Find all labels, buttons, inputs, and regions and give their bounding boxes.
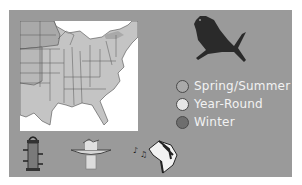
legend-label: Year-Round	[194, 97, 263, 111]
svg-text:♪: ♪	[133, 146, 138, 155]
svg-text:♫: ♫	[140, 150, 147, 159]
spring-summer-swatch	[176, 80, 189, 93]
birdbath-icon	[69, 137, 113, 173]
legend-item-spring-summer: Spring/Summer	[176, 77, 290, 95]
bird-silhouette-icon	[186, 12, 256, 70]
legend-label: Spring/Summer	[194, 79, 290, 93]
year-round-swatch	[176, 98, 189, 111]
range-map-panel: Spring/Summer Year-Round Winter ♪ ♫	[9, 10, 292, 177]
legend: Spring/Summer Year-Round Winter	[176, 77, 290, 131]
eastern-us-map	[20, 21, 138, 131]
legend-item-winter: Winter	[176, 113, 290, 131]
feeder-icon	[21, 134, 45, 174]
legend-label: Winter	[194, 115, 235, 129]
winter-swatch	[176, 116, 189, 129]
legend-item-year-round: Year-Round	[176, 95, 290, 113]
range-map	[20, 21, 138, 131]
bird-song-icon: ♪ ♫	[133, 139, 179, 175]
